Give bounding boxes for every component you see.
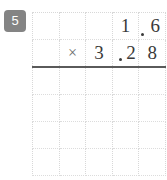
cell-r5c3[interactable] — [86, 122, 113, 149]
cell-r3c2[interactable] — [59, 67, 86, 95]
cell-r4c4[interactable] — [112, 95, 139, 122]
cell-r3c1[interactable] — [33, 67, 60, 95]
multiplication-worksheet-problem: 5 1 6 — [0, 0, 167, 180]
cell-r2c2-operator[interactable]: × — [59, 40, 86, 68]
problem-number-badge: 5 — [4, 10, 26, 32]
cell-r2c4[interactable]: 2 — [112, 40, 139, 68]
digit-r2c3: 3 — [86, 40, 112, 66]
work-row — [33, 122, 166, 149]
cell-r6c3[interactable] — [86, 149, 113, 176]
cell-r5c4[interactable] — [112, 122, 139, 149]
cell-r6c5[interactable] — [139, 149, 166, 176]
multiplicand-row: 1 6 — [33, 13, 166, 40]
work-row — [33, 149, 166, 176]
cell-r4c5[interactable] — [139, 95, 166, 122]
cell-r2c1[interactable] — [33, 40, 60, 68]
cell-r6c2[interactable] — [59, 149, 86, 176]
cell-r3c4[interactable] — [112, 67, 139, 95]
digit-r1c4: 1 — [113, 13, 139, 39]
cell-r1c2[interactable] — [59, 13, 86, 40]
cell-r5c5[interactable] — [139, 122, 166, 149]
cell-r3c5[interactable] — [139, 67, 166, 95]
cell-r2c5[interactable]: 8 — [139, 40, 166, 68]
cell-r5c1[interactable] — [33, 122, 60, 149]
grid-table: 1 6 × 3 — [32, 12, 166, 176]
cell-r1c4[interactable]: 1 — [112, 13, 139, 40]
cell-r1c5[interactable]: 6 — [139, 13, 166, 40]
cell-r5c2[interactable] — [59, 122, 86, 149]
decimal-point-r2 — [119, 58, 122, 61]
cell-r6c4[interactable] — [112, 149, 139, 176]
multiplier-row: × 3 2 8 — [33, 40, 166, 68]
cell-r1c1[interactable] — [33, 13, 60, 40]
cell-r2c3[interactable]: 3 — [86, 40, 113, 68]
cell-r4c3[interactable] — [86, 95, 113, 122]
cell-r4c2[interactable] — [59, 95, 86, 122]
calculation-grid[interactable]: 1 6 × 3 — [32, 12, 166, 173]
multiplication-operator-icon: × — [60, 40, 86, 66]
cell-r6c1[interactable] — [33, 149, 60, 176]
digit-r2c4: 2 — [126, 40, 136, 66]
work-row — [33, 67, 166, 95]
cell-r4c1[interactable] — [33, 95, 60, 122]
cell-r1c3[interactable] — [86, 13, 113, 40]
work-row — [33, 95, 166, 122]
digit-r2c5: 8 — [139, 40, 165, 66]
cell-r3c3[interactable] — [86, 67, 113, 95]
